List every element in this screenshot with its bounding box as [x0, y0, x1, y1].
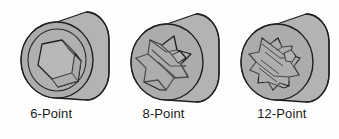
socket-types-figure: 6-Point 8-Point 12-Point [0, 0, 339, 139]
label-12-point: 12-Point [225, 106, 339, 122]
label-8-point: 8-Point [106, 106, 220, 122]
socket-12-point [241, 14, 329, 102]
socket-labels-row: 6-Point 8-Point 12-Point [0, 106, 339, 130]
socket-8-point [131, 14, 219, 102]
label-6-point: 6-Point [0, 106, 108, 122]
socket-6-point [21, 12, 109, 100]
